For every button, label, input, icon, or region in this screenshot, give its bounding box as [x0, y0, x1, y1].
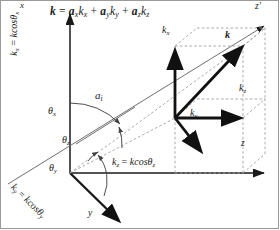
vector-k-y	[175, 118, 200, 150]
kz-theta-sub: z	[152, 161, 155, 168]
k-z-component-label: kz	[239, 83, 246, 94]
kx-lhs: k	[8, 51, 19, 55]
ky-comp-sub: y	[194, 112, 197, 119]
ai-sub: i	[101, 94, 103, 103]
kz-comp-sub: z	[243, 87, 246, 94]
theta-y-sub: y	[54, 167, 57, 174]
angle-label-theta-y: θy	[49, 163, 57, 174]
k-y-component-label: ky	[190, 108, 197, 119]
axis-label-z: z	[241, 139, 245, 149]
axis-label-z-prime: z'	[255, 2, 261, 12]
equation-plus2: +	[119, 5, 132, 17]
kx-theta-sub: x	[13, 12, 20, 15]
kx-rhs: kcos	[8, 20, 19, 38]
diagram-canvas	[0, 0, 280, 230]
angle-arc-theta-z	[119, 127, 122, 148]
kx-lhs-sub: x	[13, 48, 20, 51]
angle-arc-theta-y	[98, 155, 107, 196]
equation-plus1: +	[87, 5, 100, 17]
vector-k-resultant	[175, 48, 241, 118]
k-x-component-label: kx	[162, 25, 169, 36]
incident-ray-label: ai	[95, 90, 103, 102]
x-axis-component-equation: kx = kcosθx	[9, 0, 20, 69]
angle-label-theta-z: θz	[62, 135, 70, 146]
theta-x-sub: x	[53, 110, 56, 117]
equation-term3-var-sub: z	[146, 10, 149, 19]
angle-arc-theta-z-inner	[88, 152, 98, 161]
equation-equals: =	[56, 5, 69, 17]
angle-label-theta-x: θx	[48, 106, 56, 117]
theta-z-sub: z	[67, 139, 70, 146]
direction-cosine-diagram: k = axkx + ayky + azkz x y z z' kx = kco…	[0, 0, 280, 230]
axis-label-y: y	[88, 209, 92, 219]
kx-theta: θ	[8, 15, 19, 20]
kx-comp-sub: x	[166, 29, 169, 36]
kz-rhs: kcos	[130, 156, 148, 167]
z-axis-component-equation: kz = kcosθz	[112, 157, 155, 168]
vector-equation: k = axkx + ayky + azkz	[50, 6, 149, 19]
axis-y	[70, 173, 118, 220]
k-vector-label: k	[225, 30, 230, 40]
axis-label-z-prime-sup: '	[259, 1, 261, 11]
